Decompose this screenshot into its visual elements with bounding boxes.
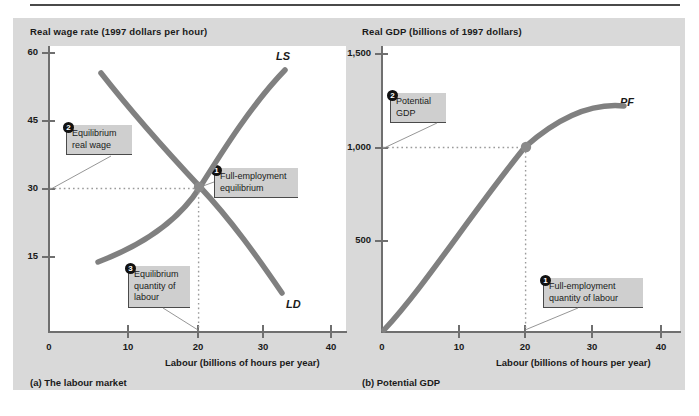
panel-b-y-tick-1500	[375, 53, 388, 55]
panel-a-callout-full-employment-equilibrium: Full-employment equilibrium	[214, 168, 298, 198]
panel-b-y-tick-1000	[375, 147, 388, 149]
panel-a-x-tick-40	[330, 325, 332, 338]
panel-b-callout-full-employment-quantity: Full-employment quantity of labour	[543, 278, 643, 308]
panel-a-x-label-20: 20	[183, 341, 213, 352]
panel-b-x-tick-20	[524, 325, 526, 338]
panel-a-callout-3-line1: Equilibrium	[134, 269, 186, 281]
panel-a-y-label-45: 45	[8, 114, 38, 125]
panel-b-badge-2: 2	[387, 90, 398, 101]
panel-b-y-axis	[381, 46, 383, 333]
panel-b-x-label-40: 40	[646, 341, 676, 352]
panel-b-x-axis-title: Labour (billions of hours per year)	[496, 357, 651, 368]
panel-b-badge-1: 1	[540, 275, 551, 286]
panel-a-caption: (a) The labour market	[30, 377, 127, 388]
panel-b-x-tick-40	[660, 325, 662, 338]
panel-a-x-label-30: 30	[248, 341, 278, 352]
panel-a-x-tick-30	[262, 325, 264, 338]
panel-a-y-tick-45	[42, 120, 55, 122]
figure-root: Real wage rate (1997 dollars per hour) 6…	[0, 0, 699, 416]
panel-a-x-tick-20	[197, 325, 199, 338]
panel-b-x-label-20: 20	[510, 341, 540, 352]
panel-a-callout-1-line2: equilibrium	[220, 183, 294, 195]
panel-a-badge-3: 3	[125, 263, 136, 274]
panel-a-callout-1-line1: Full-employment	[220, 171, 294, 183]
panel-a-y-tick-60	[42, 52, 55, 54]
panel-b-curve-label-pf: PF	[620, 96, 634, 108]
panel-b-y-tick-500	[375, 240, 388, 242]
panel-b-callout-1-line2: quantity of labour	[549, 293, 639, 305]
panel-a-callout-2-line2: real wage	[72, 140, 128, 152]
panel-b-callout-2-line2: GDP	[396, 108, 442, 120]
panel-b-x-label-30: 30	[577, 341, 607, 352]
panel-a-x-label-40: 40	[316, 341, 346, 352]
panel-a-plot-area	[49, 46, 346, 331]
top-divider-rule	[30, 4, 680, 6]
panel-b-callout-2-line1: Potential	[396, 96, 442, 108]
panel-a-x-label-0: 0	[34, 341, 64, 352]
panel-b-callout-potential-gdp: Potential GDP	[390, 93, 446, 123]
panel-b-y-label-1000: 1,000	[335, 141, 371, 152]
panel-a-curve-label-ls: LS	[276, 50, 290, 62]
panel-b-y-axis-title: Real GDP (billions of 1997 dollars)	[362, 26, 522, 37]
panel-b-x-label-10: 10	[444, 341, 474, 352]
panel-a-x-label-10: 10	[113, 341, 143, 352]
panel-a-callout-3-line3: labour	[134, 292, 186, 304]
panel-a-y-tick-15	[42, 256, 55, 258]
panel-a-curve-label-ld: LD	[286, 298, 301, 310]
panel-a-callout-2-line1: Equilibrium	[72, 128, 128, 140]
panel-b-x-tick-30	[591, 325, 593, 338]
panel-a-callout-3-line2: quantity of	[134, 281, 186, 293]
panel-a-callout-equilibrium-quantity: Equilibrium quantity of labour	[128, 266, 190, 308]
panel-b-x-label-0: 0	[367, 341, 397, 352]
panel-b-caption: (b) Potential GDP	[362, 377, 440, 388]
panel-a-x-axis-title: Labour (billions of hours per year)	[165, 357, 320, 368]
panel-a-y-tick-30	[42, 188, 55, 190]
panel-b-y-label-1500: 1,500	[335, 47, 371, 58]
panel-a-y-label-60: 60	[8, 46, 38, 57]
panel-b-x-axis	[381, 331, 681, 333]
panel-a-badge-2: 2	[63, 122, 74, 133]
panel-a-callout-equilibrium-real-wage: Equilibrium real wage	[66, 125, 132, 155]
panel-a-x-tick-10	[127, 325, 129, 338]
panel-a-y-axis-title: Real wage rate (1997 dollars per hour)	[30, 26, 207, 37]
panel-a-badge-1: 1	[211, 165, 222, 176]
panel-b-callout-1-line1: Full-employment	[549, 281, 639, 293]
panel-b-x-tick-10	[458, 325, 460, 338]
panel-b-y-label-500: 500	[335, 234, 371, 245]
panel-a-y-label-30: 30	[8, 182, 38, 193]
panel-a-y-label-15: 15	[8, 250, 38, 261]
